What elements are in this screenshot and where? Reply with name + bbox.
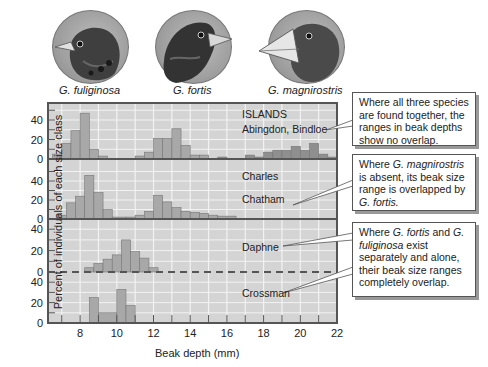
histogram-bar [300,150,309,159]
histogram-bar [181,145,190,159]
histogram-bar [126,306,135,323]
histogram-bar [89,298,98,324]
histogram-bar [85,175,94,219]
island-label-abingdon-bindloe: Abingdon, Bindloe [242,123,327,135]
histogram-bar [117,289,126,323]
y-tick-label: 40 [31,223,43,235]
histogram-bar [121,240,130,272]
histogram-bar [273,150,282,159]
histogram-bar [94,192,103,219]
histogram-bar [154,195,163,219]
histogram-bar [89,149,98,159]
x-tick-label: 14 [184,327,196,339]
histogram-bar [66,203,75,219]
histogram-bar [264,152,273,159]
histogram-bar [144,152,153,159]
histogram-bar [71,131,80,159]
x-tick-label: 12 [147,327,159,339]
island-label-charles: Charles [242,170,278,182]
histogram-bar [94,263,103,272]
histogram-bar [172,208,181,219]
y-tick-label: 20 [31,194,43,206]
island-label-crossman: Crossman [242,287,290,299]
histogram-bar [103,259,112,272]
x-tick-label: 16 [221,327,233,339]
x-tick-label: 20 [294,327,306,339]
histogram-bar [112,255,121,272]
x-tick-label: 18 [257,327,269,339]
histogram-bar [80,113,89,159]
x-axis-label: Beak depth (mm) [155,347,239,359]
y-tick-label: 0 [37,317,43,329]
islands-header: ISLANDS [242,108,287,120]
y-tick-label: 20 [31,245,43,257]
island-label-daphne: Daphne [242,241,279,253]
island-label-chatham: Chatham [242,193,285,205]
histogram-bar [103,210,112,220]
histogram-bar [98,313,116,323]
y-tick-label: 40 [31,276,43,288]
y-tick-label: 20 [31,134,43,146]
histogram-bar [309,143,318,159]
histogram-bar [144,211,153,219]
histogram-bar [140,258,149,272]
x-tick-label: 8 [77,327,83,339]
x-tick-label: 22 [331,327,343,339]
histogram-bar [131,252,140,272]
callout-complete-overlap: Where G. fortis and G. fuliginosa exist … [352,222,476,297]
x-tick-label: 10 [111,327,123,339]
y-axis-label: Percent of individuals of each size clas… [52,92,64,332]
histogram-bar [282,150,291,159]
callout-overlapped-by-fortis: Where G. magnirostris is absent, its bea… [352,154,476,211]
histogram-bar [291,146,300,159]
histogram-bar [76,196,85,219]
y-tick-label: 40 [31,114,43,126]
y-tick-label: 20 [31,297,43,309]
y-tick-label: 40 [31,175,43,187]
histogram-bar [163,139,172,159]
histogram-bar [154,139,163,159]
histogram-bar [181,211,190,219]
y-tick-label: 0 [37,153,43,165]
callout-no-overlap: Where all three species are found togeth… [352,92,476,146]
histogram-bar [172,129,181,159]
histogram-bar [163,202,172,219]
